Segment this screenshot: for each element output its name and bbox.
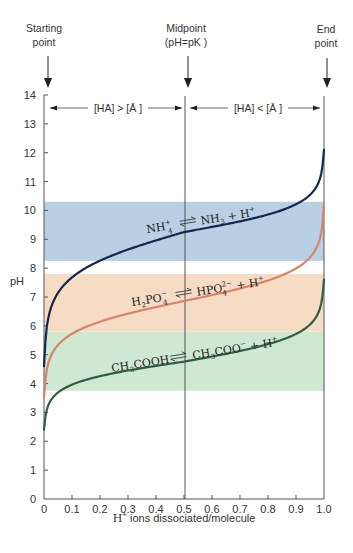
y-tick-label: 3 <box>30 406 36 418</box>
y-tick-label: 8 <box>30 262 36 274</box>
titration-chart: Starting point Midpoint (pH=pK ) End poi… <box>0 0 353 553</box>
end-point-label-line2: point <box>315 37 338 49</box>
y-tick-label: 2 <box>30 435 36 447</box>
y-tick-label: 1 <box>30 464 36 476</box>
midpoint-arrow-icon <box>184 56 192 88</box>
region-right-label: [HA] < [Ā ] <box>234 102 282 114</box>
x-tick-label: 0.9 <box>288 503 303 515</box>
x-tick-label: 0.1 <box>64 503 79 515</box>
y-tick-label: 13 <box>24 118 36 130</box>
y-tick-label: 6 <box>30 320 36 332</box>
y-tick-label: 0 <box>30 493 36 505</box>
y-tick-label: 7 <box>30 291 36 303</box>
x-tick-label: 0.2 <box>92 503 107 515</box>
x-tick-label: 0.8 <box>260 503 275 515</box>
y-tick-label: 4 <box>30 378 36 390</box>
y-tick-label: 11 <box>25 176 36 188</box>
midpoint-label-line1: Midpoint <box>166 22 206 34</box>
starting-point-arrow-icon <box>44 56 52 88</box>
y-tick-label: 12 <box>24 147 36 159</box>
starting-point-label-line1: Starting <box>26 22 62 34</box>
region-left-label: [HA] > [Ā ] <box>94 102 142 114</box>
midpoint-label-line2: (pH=pK ) <box>165 36 207 48</box>
y-tick-label: 10 <box>24 204 36 216</box>
y-tick-label: 9 <box>30 233 36 245</box>
starting-point-label-line2: point <box>33 36 56 48</box>
y-tick-label: 5 <box>30 349 36 361</box>
y-axis-title: pH <box>10 275 24 287</box>
x-tick-label: 1.0 <box>316 503 331 515</box>
end-point-label-line1: End <box>317 23 336 35</box>
end-point-arrow-icon <box>323 58 331 88</box>
x-axis-title: H+ ions dissociated/molecule <box>113 510 256 525</box>
y-tick-label: 14 <box>24 89 36 101</box>
x-tick-label: 0 <box>41 503 47 515</box>
buffer-band-phosphate <box>44 274 324 332</box>
